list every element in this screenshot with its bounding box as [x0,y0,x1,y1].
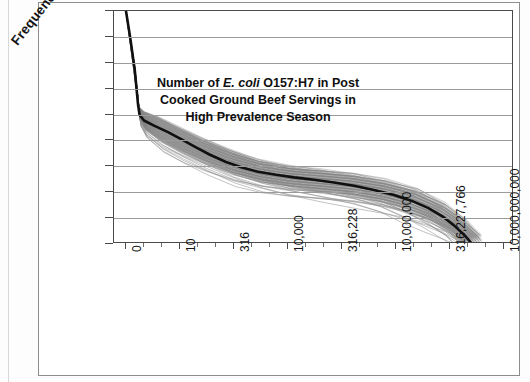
horizontal-gridline [114,63,512,64]
y-axis-tick-mark [105,165,113,166]
y-axis-tick-mark [105,62,113,63]
x-axis-minor-tick-mark [485,243,486,247]
y-axis-tick-mark [105,191,113,192]
y-axis-tick-mark [105,217,113,218]
x-axis-minor-tick-mark [215,243,216,247]
x-axis-title-pre: Number of [157,76,223,90]
x-axis-tick-label: 316,228 [346,209,360,252]
x-axis-title-line1: Number of E. coli O157:H7 in Post [157,76,359,90]
x-axis-tick-label: 10 [184,239,198,252]
x-axis-tick-mark [449,243,450,249]
y-axis-tick-mark [105,10,113,11]
y-axis-tick-mark [105,36,113,37]
x-axis-tick-mark [503,243,504,249]
x-axis-tick-label: 10,000,000 [400,192,414,252]
horizontal-gridline [114,218,512,219]
x-axis-minor-tick-mark [467,243,468,247]
plot-area [113,10,513,243]
x-axis-minor-tick-mark [305,243,306,247]
x-axis-tick-label: 0 [130,245,144,252]
x-axis-minor-tick-mark [359,243,360,247]
organism-name-italic: E. coli [223,76,260,90]
x-axis-tick-label: 10,000,000,000 [508,169,522,252]
x-axis-tick-mark [341,243,342,249]
horizontal-gridline [114,37,512,38]
x-axis-tick-mark [125,243,126,249]
x-axis-tick-label: 10,000 [292,215,306,252]
x-axis-tick-mark [395,243,396,249]
x-axis-minor-tick-mark [377,243,378,247]
x-axis-minor-tick-mark [251,243,252,247]
x-axis-minor-tick-mark [269,243,270,247]
x-axis-minor-tick-mark [323,243,324,247]
x-axis-tick-label: 316 [238,232,252,252]
x-axis: 01031610,000316,22810,000,000316,227,766… [0,243,530,382]
x-axis-title: Number of E. coli O157:H7 in Post Cooked… [108,75,408,126]
horizontal-gridline [114,192,512,193]
x-axis-tick-mark [179,243,180,249]
figure-page: Frequency 10.10.010.0010.00010.000010.00… [0,0,530,382]
x-axis-tick-mark [233,243,234,249]
x-axis-tick-label: 316,227,766 [454,185,468,252]
horizontal-gridline [114,166,512,167]
x-axis-minor-tick-mark [413,243,414,247]
x-axis-minor-tick-mark [197,243,198,247]
x-axis-minor-tick-mark [431,243,432,247]
y-axis-tick-mark [105,139,113,140]
x-axis-title-line3: High Prevalence Season [185,110,330,124]
x-axis-title-line2: Cooked Ground Beef Servings in [160,93,356,107]
x-axis-title-post: O157:H7 in Post [260,76,359,90]
x-axis-tick-mark [287,243,288,249]
x-axis-minor-tick-mark [143,243,144,247]
horizontal-gridline [114,140,512,141]
x-axis-minor-tick-mark [161,243,162,247]
